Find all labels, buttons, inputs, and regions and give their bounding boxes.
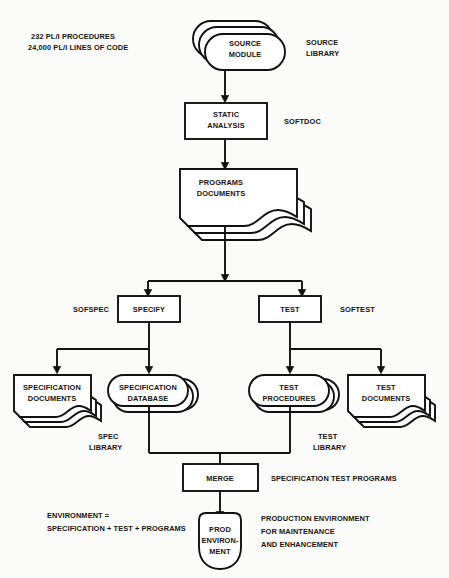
annotation-environment-line2: SPECIFICATION + TEST + PROGRAMS xyxy=(47,524,186,533)
node-label-specification-documents-line1: SPECIFICATION xyxy=(23,383,81,392)
node-label-test-procedures-line1: TEST xyxy=(279,383,299,392)
label-test-library-line1: TEST xyxy=(318,432,338,441)
label-sofspec: SOFSPEC xyxy=(73,305,110,314)
node-label-test: TEST xyxy=(280,305,300,314)
annotation-lines-of-code: 24,000 PL/I LINES OF CODE xyxy=(28,43,128,52)
node-label-source-module-line1: SOURCE xyxy=(229,39,261,48)
node-label-specification-database-line1: SPECIFICATION xyxy=(119,383,177,392)
annotation-environment-line1: ENVIRONMENT = xyxy=(47,511,110,520)
node-label-merge: MERGE xyxy=(206,474,234,483)
label-spec-library-line1: SPEC xyxy=(98,432,119,441)
node-label-prod-environment-line1: PROD xyxy=(209,525,231,534)
node-label-specification-database-line2: DATABASE xyxy=(128,394,169,403)
node-label-source-module-line2: MODULE xyxy=(229,50,262,59)
annotation-production-line1: PRODUCTION ENVIRONMENT xyxy=(261,514,370,523)
annotation-procedures: 232 PL/I PROCEDURES xyxy=(31,32,115,41)
node-label-specify: SPECIFY xyxy=(133,305,165,314)
label-source-library-line1: SOURCE xyxy=(306,38,338,47)
label-test-library-line2: LIBRARY xyxy=(313,443,346,452)
node-label-programs-documents-line2: DOCUMENTS xyxy=(197,189,246,198)
node-label-static-analysis-line1: STATIC xyxy=(213,110,240,119)
annotation-production-line2: FOR MAINTENANCE xyxy=(261,527,335,536)
label-softdoc: SOFTDOC xyxy=(284,117,321,126)
node-label-test-documents-line1: TEST xyxy=(376,383,396,392)
node-label-prod-environment-line2: ENVIRON- xyxy=(202,536,239,545)
annotation-production-line3: AND ENHANCEMENT xyxy=(261,540,338,549)
label-source-library-line2: LIBRARY xyxy=(306,49,339,58)
label-softest: SOFTEST xyxy=(340,305,375,314)
node-label-test-documents-line2: DOCUMENTS xyxy=(362,394,411,403)
node-label-programs-documents-line1: PROGRAMS xyxy=(199,178,243,187)
node-label-specification-documents-line2: DOCUMENTS xyxy=(28,394,77,403)
node-label-static-analysis-line2: ANALYSIS xyxy=(207,121,245,130)
flowchart-canvas: SOURCE MODULE STATIC ANALYSIS PROGRAMS D… xyxy=(0,0,449,578)
label-spec-library-line2: LIBRARY xyxy=(89,443,122,452)
node-label-prod-environment-line3: MENT xyxy=(209,547,231,556)
node-label-test-procedures-line2: PROCEDURES xyxy=(262,394,315,403)
annotation-merge-outputs: SPECIFICATION TEST PROGRAMS xyxy=(271,474,397,483)
